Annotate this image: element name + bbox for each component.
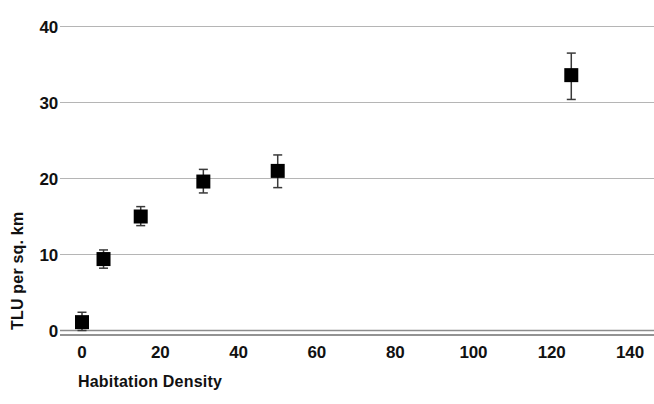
y-axis-title: TLU per sq. km	[10, 150, 26, 330]
data-point-marker	[564, 68, 578, 82]
error-bars	[78, 53, 576, 330]
x-axis-title: Habitation Density	[78, 374, 222, 390]
x-tick-label-0: 0	[77, 344, 86, 361]
x-tick-label-40: 40	[229, 344, 248, 361]
data-point-marker	[97, 252, 111, 266]
y-axis-title-wrapper: TLU per sq. km	[10, 150, 32, 330]
x-tick-label-80: 80	[386, 344, 405, 361]
x-tick-label-120: 120	[538, 344, 566, 361]
y-tick-label-40: 40	[20, 18, 58, 35]
data-markers	[75, 68, 578, 329]
x-tick-label-60: 60	[308, 344, 327, 361]
data-point-marker	[75, 315, 89, 329]
x-tick-label-100: 100	[460, 344, 488, 361]
x-tick-label-140: 140	[616, 344, 644, 361]
data-point-marker	[196, 175, 210, 189]
chart-container: 010203040 020406080100120140 TLU per sq.…	[0, 0, 654, 404]
y-tick-label-30: 30	[20, 94, 58, 111]
x-tick-label-20: 20	[151, 344, 170, 361]
data-point-marker	[271, 164, 285, 178]
data-point-marker	[134, 210, 148, 224]
